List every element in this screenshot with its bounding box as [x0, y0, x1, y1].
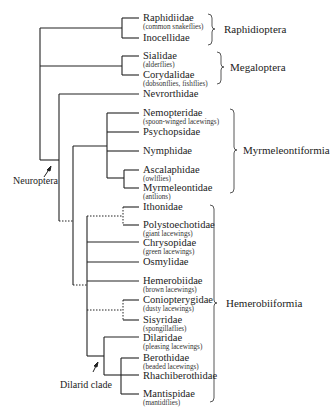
taxon-sisyridae: Sisyridae	[143, 315, 182, 326]
taxon-berothidae: Berothidae	[143, 353, 189, 364]
taxon-polystoechotidae: Polystoechotidae	[143, 220, 215, 231]
taxon-sialidae: Sialidae	[143, 51, 177, 62]
taxon-osmylidae: Osmylidae	[143, 257, 189, 268]
taxon-chrysopidae: Chrysopidae	[143, 238, 196, 249]
taxon-dilaridae: Dilaridae	[143, 333, 182, 344]
taxon-myrmeleontidae: Myrmeleontidae	[143, 183, 212, 194]
taxon-rhachiberothidae: Rhachiberothidae	[143, 371, 217, 382]
common-dilaridae: (pleasing lacewings)	[143, 344, 202, 351]
annotation-neuroptera: Neuroptera	[13, 176, 58, 186]
taxon-coniopterygidae: Coniopterygidae	[143, 295, 213, 306]
taxon-nymphidae: Nymphidae	[143, 146, 192, 157]
taxon-corydalidae: Corydalidae	[143, 70, 194, 81]
taxon-inocellidae: Inocellidae	[143, 33, 190, 44]
taxon-mantispidae: Mantispidae	[143, 389, 195, 400]
taxon-raphidiidae: Raphidiidae	[143, 13, 194, 24]
group-megaloptera: Megaloptera	[230, 62, 286, 73]
taxon-ithonidae: Ithonidae	[143, 202, 183, 213]
annotation-dilarid-clade: Dilarid clade	[60, 380, 112, 390]
common-mantispidae: (mantidflies)	[143, 400, 180, 407]
group-hemerobiiformia: Hemerobiiformia	[226, 298, 302, 309]
common-raphidiidae: (common snakeflies)	[143, 24, 203, 31]
group-raphidioptera: Raphidioptera	[224, 24, 286, 35]
common-coniopterygidae: (dusty lacewings)	[143, 306, 194, 313]
taxon-psychopsidae: Psychopsidae	[143, 127, 200, 138]
group-myrmeleontiformia: Myrmeleontiformia	[243, 145, 330, 156]
taxon-ascalaphidae: Ascalaphidae	[143, 165, 200, 176]
taxon-nevrorthidae: Nevrorthidae	[143, 89, 198, 100]
taxon-hemerobiidae: Hemerobiidae	[143, 276, 202, 287]
taxon-nemopteridae: Nemopteridae	[143, 108, 202, 119]
